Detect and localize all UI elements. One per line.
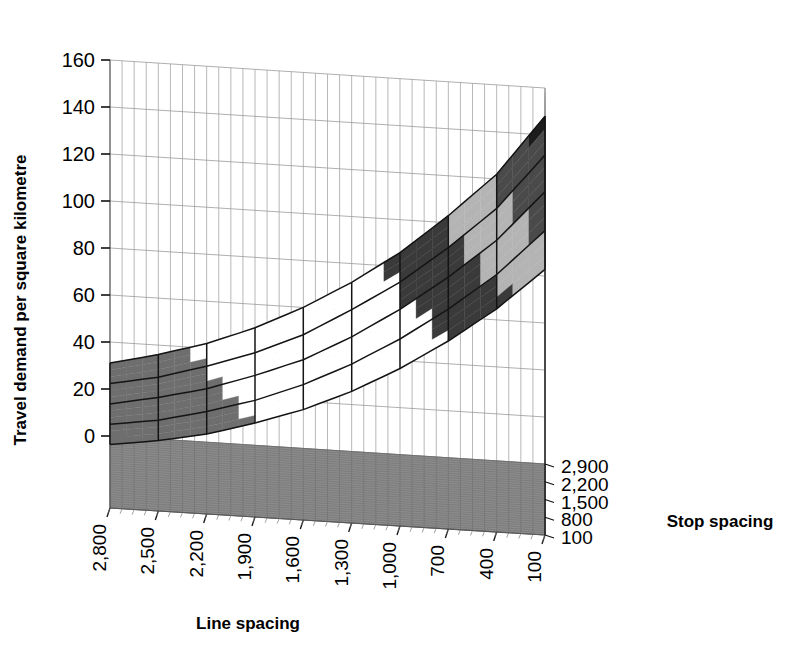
y-axis-tick-label: 160 <box>62 49 95 71</box>
x-axis-minor-tick <box>471 531 473 536</box>
z-axis-tick <box>545 500 554 503</box>
x-axis-minor-tick <box>181 513 183 518</box>
x-axis-tick-label: 2,200 <box>186 530 207 578</box>
x-axis-minor-tick <box>410 527 412 532</box>
x-axis-tick-label: 1,000 <box>379 542 400 590</box>
x-axis-minor-tick <box>289 519 291 524</box>
x-axis-minor-tick <box>132 510 134 515</box>
x-axis-title: Line spacing <box>196 614 300 633</box>
x-axis-tick-label: 1,900 <box>234 533 255 581</box>
x-axis-minor-tick <box>168 512 170 517</box>
x-axis-tick-label: 1,600 <box>282 536 303 584</box>
x-axis-minor-tick <box>434 528 436 533</box>
z-axis-tick <box>545 482 554 485</box>
z-axis-tick <box>545 517 554 520</box>
x-axis-minor-tick <box>120 509 122 514</box>
z-axis-tick <box>545 535 554 538</box>
x-axis-minor-tick <box>326 522 328 527</box>
z-axis-tick <box>545 464 554 467</box>
x-axis-minor-tick <box>277 519 279 524</box>
x-axis-minor-tick <box>217 515 219 520</box>
x-axis-tick-label: 700 <box>427 545 448 577</box>
z-axis-title: Stop spacing <box>667 512 774 531</box>
x-axis-minor-tick <box>483 531 485 536</box>
x-axis-minor-tick <box>519 534 521 539</box>
z-axis-tick-label: 100 <box>561 527 593 548</box>
x-axis-tick-label: 2,500 <box>137 527 158 575</box>
x-axis-minor-tick <box>241 516 243 521</box>
x-axis-tick-label: 400 <box>476 548 497 580</box>
x-axis-minor-tick <box>422 528 424 533</box>
z-axis-tick-labels: 2,9002,2001,500800100 <box>561 456 609 548</box>
y-axis-tick-label: 100 <box>62 190 95 212</box>
y-axis-tick-label: 80 <box>73 237 95 259</box>
x-axis-minor-tick <box>374 525 376 530</box>
y-axis-tick-label: 0 <box>84 425 95 447</box>
x-axis-minor-tick <box>229 516 231 521</box>
x-axis-tick-label: 100 <box>524 551 545 583</box>
x-axis-minor-tick <box>362 524 364 529</box>
y-axis-tick-label: 140 <box>62 96 95 118</box>
x-axis-tick-label: 2,800 <box>89 524 110 572</box>
x-axis-tick-labels: 2,8002,5002,2001,9001,6001,3001,00070040… <box>89 524 545 590</box>
x-axis-minor-tick <box>144 510 146 515</box>
x-axis-tick-label: 1,300 <box>331 539 352 587</box>
x-axis-minor-tick <box>458 530 460 535</box>
x-axis-minor-tick <box>338 522 340 527</box>
x-axis-minor-tick <box>531 534 533 539</box>
chart-canvas: 020406080100120140160 2,8002,5002,2001,9… <box>0 0 786 647</box>
y-axis-tick-label: 120 <box>62 143 95 165</box>
y-axis-title: Travel demand per square kilometre <box>11 154 30 445</box>
x-axis-minor-tick <box>507 533 509 538</box>
x-axis-minor-tick <box>313 521 315 526</box>
y-axis-tick-labels: 020406080100120140160 <box>62 49 95 447</box>
x-axis-minor-tick <box>386 525 388 530</box>
y-axis-tick-label: 60 <box>73 284 95 306</box>
y-axis-tick-label: 20 <box>73 378 95 400</box>
x-axis-minor-tick <box>193 513 195 518</box>
y-axis-tick-label: 40 <box>73 331 95 353</box>
surface-chart: 020406080100120140160 2,8002,5002,2001,9… <box>0 0 786 647</box>
x-axis-minor-tick <box>265 518 267 523</box>
